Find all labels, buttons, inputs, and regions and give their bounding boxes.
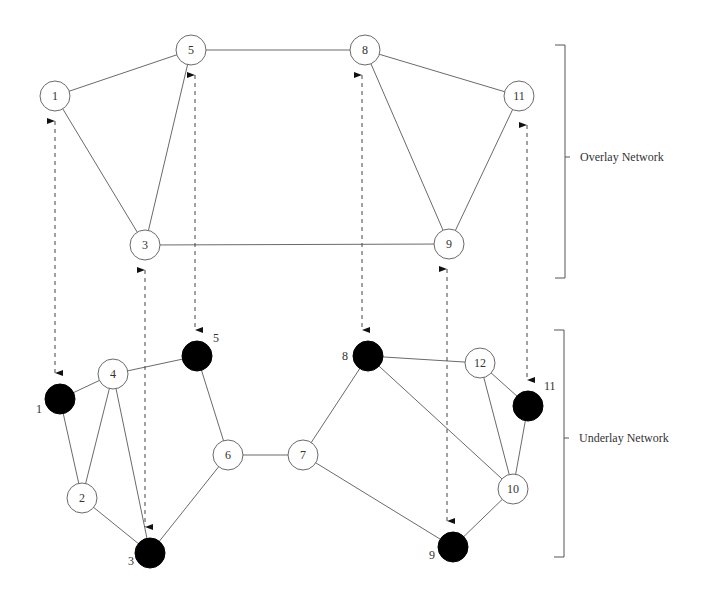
overlay-node-1: 1 [40,81,70,111]
underlay-node-label: 5 [213,331,219,345]
overlay-edge-11-9 [449,96,519,244]
underlay-node-circle [135,538,165,568]
overlay-bracket-line [555,45,570,278]
underlay-node-label: 6 [225,448,231,462]
overlay-edges [55,50,519,245]
overlay-node-8: 8 [350,35,380,65]
overlay-node-11: 11 [504,81,534,111]
overlay-edge-1-5 [55,50,191,96]
overlay-edge-8-11 [365,50,519,96]
underlay-edge-4-2 [82,374,113,498]
underlay-bracket-line [554,330,569,557]
underlay-edge-8-10 [368,356,513,489]
underlay-network-label: Underlay Network [579,431,669,445]
underlay-edge-7-9 [303,455,453,547]
underlay-node-circle [513,391,543,421]
underlay-network-bracket: Underlay Network [554,330,669,557]
underlay-edge-12-10 [480,363,513,489]
underlay-node-2: 2 [67,483,97,513]
underlay-edge-7-8 [303,356,368,455]
underlay-edge-3-6 [150,455,228,553]
overlay-edge-5-3 [145,50,191,245]
underlay-node-label: 7 [300,448,306,462]
underlay-node-circle [438,532,468,562]
overlay-node-3: 3 [130,230,160,260]
overlay-network-label: Overlay Network [580,150,664,164]
underlay-edge-5-6 [197,356,228,455]
network-diagram: 1581139 123456789101112 Overlay Network … [0,0,710,602]
overlay-node-5: 5 [176,35,206,65]
overlay-node-label: 9 [446,237,452,251]
overlay-node-label: 11 [513,89,525,103]
underlay-node-label: 2 [79,491,85,505]
overlay-node-label: 8 [362,43,368,57]
underlay-node-6: 6 [213,440,243,470]
overlay-edge-8-9 [365,50,449,244]
overlay-nodes: 1581139 [40,35,534,260]
underlay-node-1: 1 [36,384,75,416]
underlay-node-circle [353,341,383,371]
overlay-edge-3-9 [145,244,449,245]
overlay-node-label: 5 [188,43,194,57]
underlay-node-circle [45,384,75,414]
underlay-nodes: 123456789101112 [36,331,556,568]
underlay-node-label: 8 [342,349,348,363]
overlay-edge-1-3 [55,96,145,245]
underlay-edge-8-12 [368,356,480,363]
underlay-node-circle [182,341,212,371]
underlay-node-7: 7 [288,440,318,470]
overlay-node-9: 9 [434,229,464,259]
overlay-node-label: 1 [52,89,58,103]
underlay-node-label: 9 [429,548,435,562]
underlay-node-label: 11 [544,379,556,393]
underlay-node-10: 10 [498,474,528,504]
underlay-node-3: 3 [128,538,165,568]
underlay-node-5: 5 [182,331,219,371]
underlay-node-label: 3 [128,554,134,568]
underlay-node-label: 10 [507,482,519,496]
overlay-node-label: 3 [142,238,148,252]
underlay-node-4: 4 [98,359,128,389]
overlay-network-bracket: Overlay Network [555,45,664,278]
underlay-node-12: 12 [465,348,495,378]
underlay-node-9: 9 [429,532,468,562]
underlay-node-label: 4 [110,367,116,381]
underlay-node-label: 12 [474,356,486,370]
underlay-edge-4-3 [113,374,150,553]
underlay-node-11: 11 [513,379,556,421]
underlay-node-8: 8 [342,341,383,371]
underlay-node-label: 1 [36,402,42,416]
